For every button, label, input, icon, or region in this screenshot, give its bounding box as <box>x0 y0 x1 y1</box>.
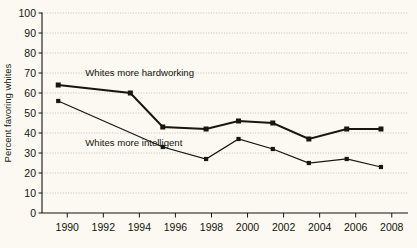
y-tick-label: 40 <box>24 127 36 139</box>
data-point-marker <box>160 125 165 130</box>
x-tick-label: 2000 <box>236 221 260 233</box>
x-tick-label: 2004 <box>308 221 332 233</box>
y-tick-label: 80 <box>24 47 36 59</box>
data-point-marker <box>204 127 209 132</box>
y-tick-label: 30 <box>24 147 36 159</box>
data-point-marker <box>56 99 60 103</box>
data-point-marker <box>344 127 349 132</box>
y-axis-title: Percent favoring whites <box>2 63 13 162</box>
data-point-marker <box>270 121 275 126</box>
y-tick-label: 90 <box>24 27 36 39</box>
series-annotation-label: Whites more hardworking <box>85 67 194 78</box>
x-tick-label: 2006 <box>344 221 368 233</box>
x-tick-label: 1990 <box>56 221 80 233</box>
data-point-marker <box>236 137 240 141</box>
y-tick-label: 70 <box>24 67 36 79</box>
chart-background <box>0 0 417 248</box>
y-tick-label: 0 <box>30 207 36 219</box>
data-point-marker <box>236 119 241 124</box>
data-point-marker <box>378 127 383 132</box>
y-tick-label: 20 <box>24 167 36 179</box>
series-annotation-label: Whites more intelligent <box>85 137 182 148</box>
y-tick-label: 100 <box>18 7 36 19</box>
y-tick-label: 60 <box>24 87 36 99</box>
x-tick-label: 1996 <box>164 221 188 233</box>
y-tick-label: 50 <box>24 107 36 119</box>
data-point-marker <box>128 91 133 96</box>
data-point-marker <box>56 83 61 88</box>
data-point-marker <box>345 157 349 161</box>
x-tick-label: 1992 <box>92 221 116 233</box>
x-tick-label: 1994 <box>128 221 152 233</box>
data-point-marker <box>306 137 311 142</box>
line-chart: 0102030405060708090100 19901992199419961… <box>0 0 417 248</box>
data-point-marker <box>307 161 311 165</box>
x-tick-label: 2008 <box>380 221 404 233</box>
x-tick-label: 1998 <box>200 221 224 233</box>
data-point-marker <box>204 157 208 161</box>
chart-container: 0102030405060708090100 19901992199419961… <box>0 0 417 248</box>
data-point-marker <box>379 165 383 169</box>
x-tick-label: 2002 <box>272 221 296 233</box>
y-tick-label: 10 <box>24 187 36 199</box>
data-point-marker <box>271 147 275 151</box>
